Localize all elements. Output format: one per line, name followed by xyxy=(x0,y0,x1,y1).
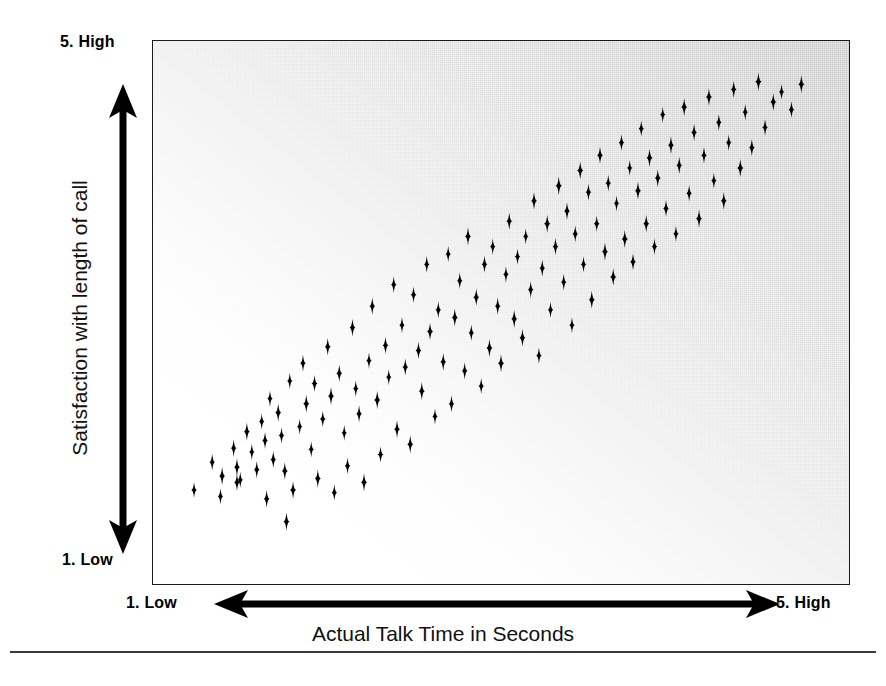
scatter-point xyxy=(711,173,717,189)
scatter-point xyxy=(361,473,368,491)
scatter-point xyxy=(267,391,273,407)
scatter-point xyxy=(581,256,587,272)
scatter-point xyxy=(676,157,682,174)
scatter-point xyxy=(655,169,661,187)
scatter-point xyxy=(668,136,674,154)
scatter-point xyxy=(602,242,609,260)
scatter-point xyxy=(369,297,375,314)
scatter-point xyxy=(564,202,570,220)
scatter-point xyxy=(523,228,529,244)
scatter-point xyxy=(287,373,293,390)
scatter-point xyxy=(486,339,492,357)
scatter-point xyxy=(249,444,255,461)
scatter-point xyxy=(572,225,578,242)
scatter-point xyxy=(378,446,384,463)
scatter-point xyxy=(462,362,468,379)
scatter-point xyxy=(303,395,309,413)
scatter-point xyxy=(415,342,421,359)
scatter-point xyxy=(548,302,554,318)
scatter-point xyxy=(465,227,472,245)
scatter-point xyxy=(263,490,269,508)
scatter-point xyxy=(341,425,347,441)
scatter-point xyxy=(336,365,342,383)
y-axis-high-label: 5. High xyxy=(60,33,115,51)
scatter-point xyxy=(374,391,381,409)
scatter-point xyxy=(297,419,303,435)
scatter-point xyxy=(440,353,446,371)
scatter-point xyxy=(394,420,400,438)
scatter-point xyxy=(237,472,243,488)
scatter-point xyxy=(663,200,669,217)
scatter-point xyxy=(290,481,296,499)
scatter-point xyxy=(282,462,288,479)
scatter-point xyxy=(270,451,276,468)
scatter-point xyxy=(585,183,591,200)
scatter-point xyxy=(259,414,265,430)
scatter-point xyxy=(519,329,525,347)
scatter-point xyxy=(536,348,542,364)
scatter-point xyxy=(605,175,611,192)
scatter-point xyxy=(382,337,388,355)
scatter-point xyxy=(435,302,441,319)
scatter-point xyxy=(209,454,215,471)
scatter-point xyxy=(300,355,306,372)
scatter-point xyxy=(311,375,317,392)
scatter-point xyxy=(706,88,712,106)
scatter-point xyxy=(506,213,512,230)
scatter-point xyxy=(244,423,251,441)
scatter-point xyxy=(234,458,241,476)
scatter-point xyxy=(737,159,744,177)
scatter-point xyxy=(218,488,224,504)
scatter-point xyxy=(448,395,454,412)
scatter-point xyxy=(402,358,408,375)
scatter-point xyxy=(635,182,642,200)
scatter-point xyxy=(749,139,755,156)
scatter-point xyxy=(638,120,644,136)
scatter-point xyxy=(696,210,703,228)
scatter-point xyxy=(691,124,697,141)
scatter-points-layer xyxy=(153,41,849,584)
scatter-point xyxy=(356,405,362,422)
scatter-point xyxy=(627,160,633,176)
scatter-point xyxy=(755,73,762,91)
scatter-point xyxy=(386,369,392,385)
scatter-point xyxy=(614,195,620,211)
x-axis-high-label: 5. High xyxy=(776,594,831,612)
scatter-point xyxy=(569,317,575,333)
scatter-point xyxy=(331,484,337,501)
scatter-point xyxy=(555,177,562,195)
scatter-point xyxy=(399,317,405,333)
scatter-point xyxy=(219,467,225,485)
scatter-point xyxy=(411,287,417,303)
scatter-point xyxy=(353,380,359,396)
scatter-point xyxy=(432,408,438,424)
scatter-point xyxy=(643,215,649,232)
scatter-point xyxy=(349,319,355,337)
scatter-point xyxy=(457,273,463,289)
scatter-point xyxy=(495,298,501,315)
scatter-point xyxy=(498,354,505,372)
scatter-point xyxy=(589,291,596,309)
scatter-point xyxy=(561,274,567,291)
scatter-point xyxy=(577,162,583,180)
scatter-point xyxy=(275,404,282,422)
scatter-point xyxy=(762,119,768,136)
scatter-point xyxy=(770,93,776,111)
scatter-point xyxy=(407,435,414,453)
scatter-point xyxy=(391,276,397,293)
scatter-point xyxy=(490,238,496,254)
scatter-point xyxy=(651,238,657,255)
scatter-point xyxy=(231,440,237,457)
scatter-point xyxy=(701,147,707,164)
scatter-point xyxy=(445,246,451,262)
scatter-point xyxy=(721,192,727,210)
scatter-point xyxy=(424,256,430,273)
scatter-point xyxy=(481,256,487,273)
scatter-point xyxy=(254,461,260,479)
y-axis-title: Satisfaction with length of call xyxy=(68,58,92,578)
scatter-point xyxy=(798,75,804,93)
scatter-point xyxy=(234,474,240,491)
scatter-point xyxy=(742,104,748,120)
scatter-point xyxy=(473,288,479,306)
scatter-point xyxy=(308,441,314,457)
